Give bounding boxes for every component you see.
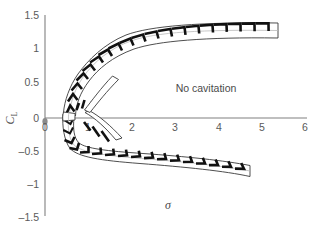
no-cavitation-annotation: No cavitation <box>176 82 237 94</box>
vertex-hatch-mark <box>102 131 110 142</box>
x-tick-label: 4 <box>216 121 222 133</box>
x-tick-labels: 0 1 2 3 4 5 6 <box>42 121 308 133</box>
y-tick-label: –1.5 <box>19 211 40 223</box>
x-tick-label: 0 <box>42 121 48 133</box>
y-tick-labels: 1.5 1 0.5 0 –0.5 –1 –1.5 <box>19 9 40 223</box>
y-tick-label: 0 <box>33 112 39 124</box>
y-axis-title-group: CL <box>3 111 19 124</box>
x-tick-label: 5 <box>259 121 265 133</box>
y-tick-label: 1.5 <box>24 9 39 21</box>
y-tick-label: –0.5 <box>19 145 40 157</box>
vertex-throat-upper <box>85 76 119 113</box>
upper-band-centerline <box>70 30 279 114</box>
x-tick-label: 6 <box>302 121 308 133</box>
x-axis-title: σ <box>165 198 172 212</box>
x-tick-label: 3 <box>172 121 178 133</box>
y-axis-title-subscript: L <box>10 111 19 116</box>
y-tick-label: 1 <box>33 42 39 54</box>
vertex-hatch-mark <box>82 100 85 109</box>
x-tick-label: 2 <box>129 121 135 133</box>
axes-group <box>42 15 307 216</box>
y-axis-title: CL <box>3 111 19 124</box>
vertex-hatch-mark <box>93 127 100 137</box>
y-tick-label: 0.5 <box>24 76 39 88</box>
y-tick-label: –1 <box>27 178 39 190</box>
chart-canvas: 1.5 1 0.5 0 –0.5 –1 –1.5 0 1 2 3 4 5 6 <box>0 0 315 229</box>
cavitation-chart: 1.5 1 0.5 0 –0.5 –1 –1.5 0 1 2 3 4 5 6 <box>0 0 315 229</box>
